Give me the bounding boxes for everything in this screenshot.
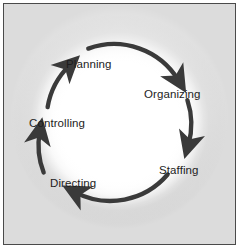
cycle-node-staffing: Staffing	[159, 164, 199, 177]
arrow-organizing-to-staffing	[187, 100, 191, 145]
cycle-node-planning: Planning	[66, 58, 112, 71]
cycle-node-organizing: Organizing	[144, 88, 201, 101]
figure-root: Planning Organizing Staffing Directing C…	[0, 0, 242, 251]
cycle-node-controlling: Controlling	[29, 117, 85, 130]
figure-frame: Planning Organizing Staffing Directing C…	[3, 3, 236, 245]
arrow-directing-to-controlling	[39, 132, 44, 173]
arrow-controlling-to-planning	[48, 65, 70, 107]
cycle-node-directing: Directing	[50, 177, 96, 190]
